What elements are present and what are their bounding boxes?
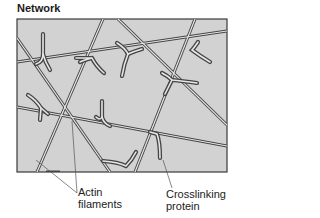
actin-label-line1: Actin [78, 186, 122, 198]
crosslinking-protein-label: Crosslinking protein [166, 188, 226, 212]
actin-filaments-label: Actin filaments [78, 186, 122, 210]
crosslink-label-line1: Crosslinking [166, 188, 226, 200]
actin-label-line2: filaments [78, 198, 122, 210]
crosslink-label-line2: protein [166, 200, 226, 212]
